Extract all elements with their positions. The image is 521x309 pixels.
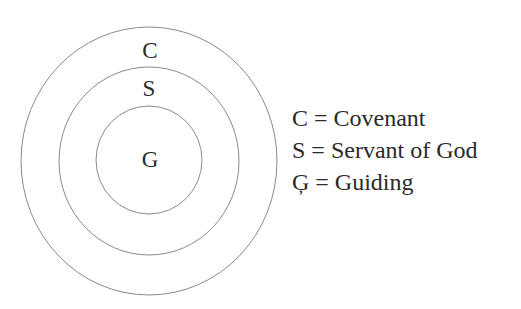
- ring-label-s: S: [143, 77, 156, 100]
- legend: C = Covenant S = Servant of God Ģ = Guid…: [292, 102, 478, 198]
- ring-label-g: G: [142, 148, 159, 171]
- legend-item-guiding: Ģ = Guiding: [292, 166, 478, 198]
- legend-item-covenant: C = Covenant: [292, 102, 478, 134]
- ring-label-c: C: [142, 39, 157, 62]
- legend-item-servant-of-god: S = Servant of God: [292, 134, 478, 166]
